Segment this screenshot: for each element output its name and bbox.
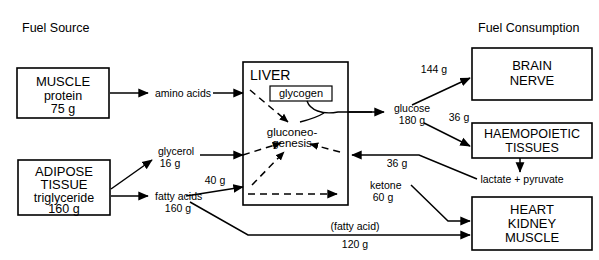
label-fatty-acid-direct-amount: 120 g [342, 238, 368, 250]
consumption-box-heart-kidney-muscle: HEART KIDNEY MUSCLE [472, 197, 592, 250]
heart-kidney-muscle-line-1: HEART [510, 202, 554, 217]
arrow-lactate-recycle-to-liver [352, 155, 477, 179]
gluconeogenesis-line-2: genesis [272, 137, 312, 149]
organ-box-liver: LIVER glycogen gluconeo- genesis [243, 62, 348, 205]
liver-title: LIVER [250, 67, 290, 83]
arrow-glucose-to-brain-nerve [412, 78, 470, 105]
metabolic-fuel-flow-diagram: Fuel Source Fuel Consumption MUSCLE prot… [0, 0, 599, 260]
brain-nerve-line-2: NERVE [510, 73, 555, 88]
label-ketone-amount: 60 g [373, 191, 394, 203]
brain-nerve-line-1: BRAIN [512, 58, 552, 73]
haemopoietic-line-1: HAEMOPOIETIC [484, 127, 580, 141]
label-amino-acids: amino acids [155, 87, 211, 99]
heart-kidney-muscle-line-2: KIDNEY [508, 216, 557, 231]
label-fatty-acids-name: fatty acids [155, 190, 202, 202]
label-glucose-name: glucose [394, 102, 430, 114]
haemopoietic-line-2: TISSUES [505, 141, 559, 155]
label-glycerol-name: glycerol [158, 145, 194, 157]
arrow-glucose-to-haemopoietic [424, 123, 470, 146]
consumption-box-brain-nerve: BRAIN NERVE [472, 48, 592, 100]
label-liver-fatty-acid-input: 40 g [205, 174, 226, 186]
glycogen-label: glycogen [279, 87, 323, 99]
label-glucose-to-brain-amount: 144 g [421, 63, 447, 75]
arrow-ketone-to-heart-kidney-muscle [411, 185, 470, 221]
label-glycerol-amount: 16 g [160, 157, 181, 169]
label-fatty-acids-amount: 160 g [165, 202, 191, 214]
adipose-line-4: 160 g [48, 202, 79, 216]
heart-kidney-muscle-line-3: MUSCLE [505, 230, 560, 245]
arrow-adipose-to-glycerol [111, 160, 152, 189]
label-fatty-acid-direct-name: (fatty acid) [330, 220, 379, 232]
label-ketone-name: ketone [370, 179, 402, 191]
consumption-box-haemopoietic-tissues: HAEMOPOIETIC TISSUES [472, 123, 592, 158]
muscle-line-3: 75 g [51, 102, 75, 116]
label-glucose-to-haemopoietic-amount: 36 g [449, 111, 470, 123]
muscle-line-2: protein [44, 89, 82, 103]
heading-fuel-consumption: Fuel Consumption [478, 21, 579, 35]
heading-fuel-source: Fuel Source [22, 21, 89, 35]
source-box-adipose-tissue: ADIPOSE TISSUE triglyceride 160 g [18, 160, 110, 216]
muscle-line-1: MUSCLE [36, 74, 91, 89]
source-box-muscle: MUSCLE protein 75 g [17, 68, 109, 118]
label-lactate-pyruvate: lactate + pyruvate [480, 173, 563, 185]
label-lactate-recycle-amount: 36 g [387, 157, 408, 169]
diagram-canvas: Fuel Source Fuel Consumption MUSCLE prot… [0, 0, 599, 260]
adipose-line-2: TISSUE [41, 177, 88, 192]
label-glucose-amount: 180 g [399, 114, 425, 126]
